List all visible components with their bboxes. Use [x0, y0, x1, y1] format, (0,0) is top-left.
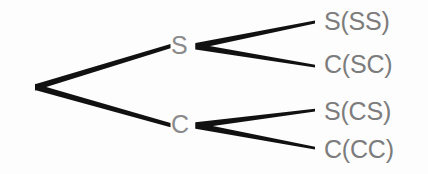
edge-root-to-s [35, 44, 171, 90]
leaf-label-sc: C(SC) [324, 52, 392, 77]
node-label-s: S [171, 33, 188, 58]
leaf-label-cs: S(CS) [324, 99, 391, 124]
edge-root-to-c [35, 84, 171, 127]
edge-s-to-leaf-ss [196, 21, 316, 50]
tree-diagram: S C S(SS) C(SC) S(CS) C(CC) [0, 0, 428, 174]
node-label-c: C [171, 112, 189, 137]
edge-c-to-leaf-cs [196, 109, 316, 129]
leaf-label-ss: S(SS) [324, 9, 390, 34]
edge-s-to-leaf-sc [196, 43, 316, 67]
leaf-label-cc: C(CC) [324, 137, 394, 162]
edge-c-to-leaf-cc [196, 123, 316, 150]
